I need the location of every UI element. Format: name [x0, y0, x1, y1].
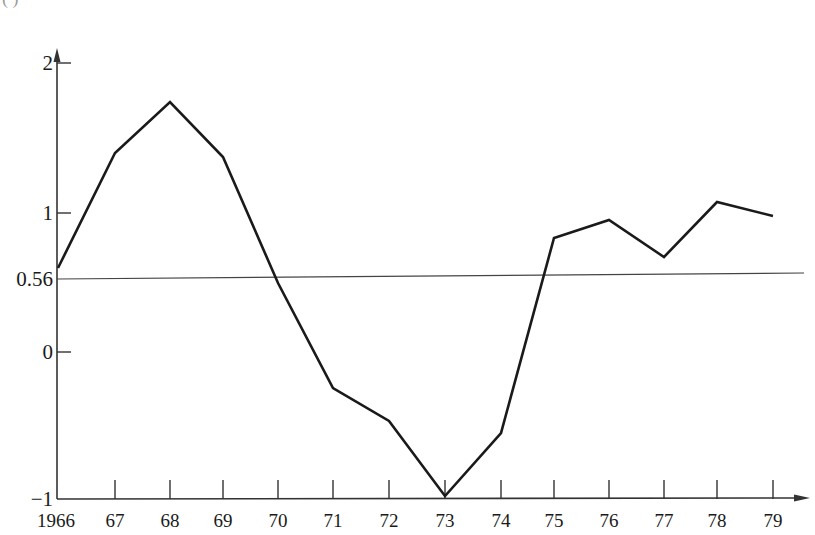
y-tick-label: −1 — [31, 487, 53, 511]
x-tick-label: 76 — [600, 510, 619, 531]
y-axis-arrow-icon — [54, 48, 61, 62]
x-tick-label: 72 — [380, 510, 399, 531]
data-series-line — [58, 102, 773, 496]
x-axis-ticks: 196667686970717273747576777879 — [37, 480, 783, 531]
x-tick-label: 77 — [655, 510, 674, 531]
x-axis-arrow-icon — [794, 495, 810, 502]
y-tick-label: 0.56 — [16, 267, 53, 291]
x-tick-label: 70 — [269, 510, 288, 531]
y-axis-ticks: 210.560−1 — [16, 51, 71, 511]
x-tick-label: 1966 — [37, 510, 75, 531]
y-tick-label: 2 — [43, 51, 54, 75]
x-tick-label: 67 — [106, 510, 125, 531]
x-tick-label: 74 — [492, 510, 512, 531]
x-tick-label: 78 — [708, 510, 727, 531]
y-tick-label: 0 — [43, 340, 54, 364]
x-tick-label: 69 — [214, 510, 233, 531]
x-tick-label: 71 — [324, 510, 343, 531]
reference-line-0-56 — [57, 273, 804, 279]
line-chart: 210.560−1 196667686970717273747576777879 — [0, 0, 815, 535]
y-tick-label: 1 — [43, 201, 54, 225]
x-tick-label: 68 — [161, 510, 180, 531]
x-tick-label: 75 — [545, 510, 564, 531]
axes — [54, 48, 811, 502]
x-axis — [57, 498, 800, 499]
x-tick-label: 73 — [436, 510, 455, 531]
x-tick-label: 79 — [764, 510, 783, 531]
